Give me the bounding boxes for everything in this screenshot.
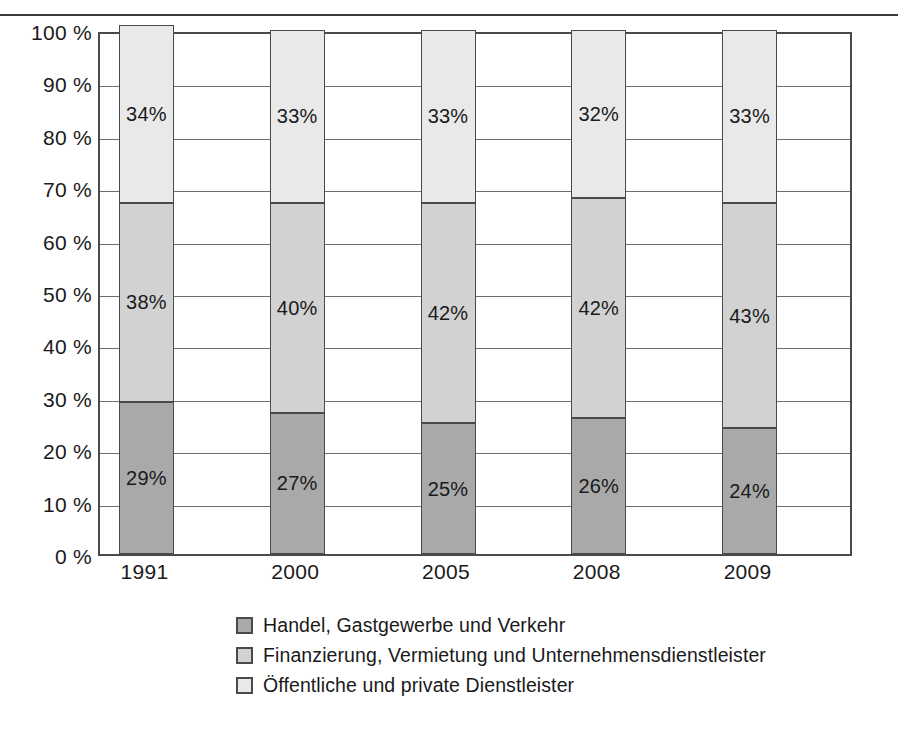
y-axis-tick-label: 80 % — [10, 127, 92, 148]
bar-segment[interactable]: 40% — [270, 203, 325, 413]
chart-legend: Handel, Gastgewerbe und VerkehrFinanzier… — [236, 610, 756, 700]
bar-segment[interactable]: 34% — [119, 25, 174, 203]
bar-segment-label: 32% — [578, 104, 619, 124]
chart-figure: 100 %90 %80 %70 %60 %50 %40 %30 %20 %10 … — [0, 0, 898, 736]
y-axis-tick-label: 50 % — [10, 284, 92, 305]
legend-item-label: Handel, Gastgewerbe und Verkehr — [263, 614, 565, 636]
legend-item[interactable]: Handel, Gastgewerbe und Verkehr — [236, 610, 756, 640]
y-axis-tick-label: 40 % — [10, 336, 92, 357]
bar-segment[interactable]: 43% — [722, 203, 777, 428]
legend-item-label: Finanzierung, Vermietung und Unternehmen… — [263, 644, 766, 666]
x-axis-tick-label: 1991 — [89, 560, 199, 584]
header-divider — [0, 14, 898, 16]
legend-item-label: Öffentliche und private Dienstleister — [263, 674, 574, 696]
x-axis-tick-label: 2008 — [542, 560, 652, 584]
y-axis-tick-label: 100 % — [10, 22, 92, 43]
bar-segment[interactable]: 29% — [119, 402, 174, 554]
bar-segment[interactable]: 32% — [571, 30, 626, 198]
y-axis-tick-label: 30 % — [10, 389, 92, 410]
bar-segment[interactable]: 42% — [421, 203, 476, 423]
x-axis: 19912000200520082009 — [98, 560, 852, 594]
bar-segment[interactable]: 27% — [270, 413, 325, 554]
legend-item[interactable]: Finanzierung, Vermietung und Unternehmen… — [236, 640, 756, 670]
y-axis-tick-label: 60 % — [10, 232, 92, 253]
bar-segment-label: 27% — [277, 473, 318, 493]
bar-segment-label: 25% — [428, 479, 469, 499]
bar-segment[interactable]: 33% — [722, 30, 777, 203]
bar-segment-label: 33% — [277, 106, 318, 126]
bar-segment-label: 33% — [729, 106, 770, 126]
plot-area: 29%38%34%27%40%33%25%42%33%26%42%32%24%4… — [98, 32, 852, 556]
x-axis-tick-label: 2000 — [240, 560, 350, 584]
bar-segment-label: 34% — [126, 104, 167, 124]
bar-segment[interactable]: 26% — [571, 418, 626, 554]
legend-swatch-icon — [236, 647, 253, 664]
legend-swatch-icon — [236, 677, 253, 694]
bar-segment-label: 29% — [126, 468, 167, 488]
bar-segment-label: 24% — [729, 481, 770, 501]
y-axis-tick-label: 0 % — [10, 546, 92, 567]
legend-item[interactable]: Öffentliche und private Dienstleister — [236, 670, 756, 700]
bar-segment[interactable]: 42% — [571, 198, 626, 418]
x-axis-tick-label: 2005 — [391, 560, 501, 584]
bar-segment-label: 26% — [578, 476, 619, 496]
y-axis-tick-label: 20 % — [10, 441, 92, 462]
bar-segment[interactable]: 38% — [119, 203, 174, 402]
bar-segment[interactable]: 24% — [722, 428, 777, 554]
x-axis-tick-label: 2009 — [693, 560, 803, 584]
bar-segment[interactable]: 33% — [270, 30, 325, 203]
y-axis-tick-label: 10 % — [10, 494, 92, 515]
bar-segment-label: 40% — [277, 298, 318, 318]
bar-segment-label: 42% — [578, 298, 619, 318]
bar-segment[interactable]: 33% — [421, 30, 476, 203]
bar-segment-label: 33% — [428, 106, 469, 126]
bar-segment-label: 42% — [428, 303, 469, 323]
y-axis-tick-label: 90 % — [10, 74, 92, 95]
bar-segment-label: 38% — [126, 292, 167, 312]
y-axis: 100 %90 %80 %70 %60 %50 %40 %30 %20 %10 … — [10, 32, 92, 556]
bar-segment[interactable]: 25% — [421, 423, 476, 554]
bar-segment-label: 43% — [729, 306, 770, 326]
legend-swatch-icon — [236, 617, 253, 634]
y-axis-tick-label: 70 % — [10, 179, 92, 200]
